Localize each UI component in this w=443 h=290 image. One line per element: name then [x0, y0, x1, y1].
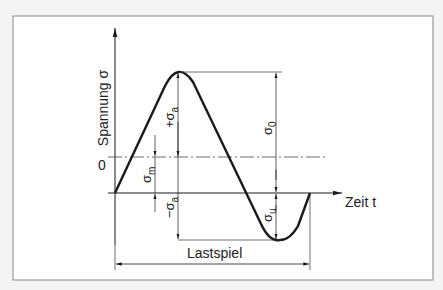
frame	[13, 16, 433, 280]
y-axis-label: Spannung σ	[95, 69, 111, 146]
x-axis-label: Zeit t	[345, 194, 376, 210]
zero-label: 0	[98, 157, 106, 173]
load-cycle-label: Lastspiel	[187, 245, 242, 261]
stress-cycle-diagram: Spannung σ Zeit t 0 +σa −σa σm σ0 σu Las…	[0, 0, 443, 290]
